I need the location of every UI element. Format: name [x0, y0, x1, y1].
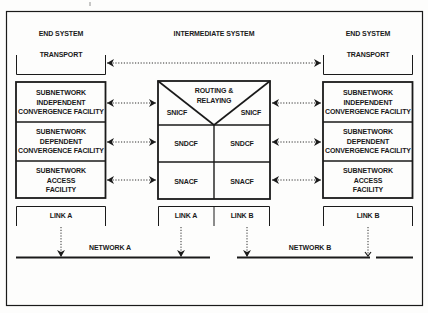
left-end-system-title: END SYSTEM — [16, 29, 106, 39]
middle-snacf-right-label: SNACF — [214, 177, 270, 187]
right-sni-convergence-label: SUBNETWORK INDEPENDENT CONVERGENCE FACIL… — [323, 88, 413, 117]
left-snd-convergence-label: SUBNETWORK DEPENDENT CONVERGENCE FACILIT… — [16, 127, 106, 156]
middle-link-a-label: LINK A — [158, 211, 214, 221]
left-sni-convergence-label: SUBNETWORK INDEPENDENT CONVERGENCE FACIL… — [16, 88, 106, 117]
middle-snicf-left-label: SNICF — [162, 108, 192, 118]
routing-relaying-label: ROUTING & RELAYING — [184, 86, 244, 105]
left-sn-access-label: SUBNETWORK ACCESS FACILITY — [16, 166, 106, 195]
right-end-system-title: END SYSTEM — [323, 29, 413, 39]
right-link-label: LINK B — [323, 211, 413, 221]
right-sn-access-label: SUBNETWORK ACCESS FACILITY — [323, 166, 413, 195]
middle-sndcf-right-label: SNDCF — [214, 139, 270, 149]
network-b-label: NETWORK B — [280, 243, 340, 253]
diagram-canvas — [0, 0, 428, 313]
middle-sndcf-left-label: SNDCF — [158, 139, 214, 149]
intermediate-system-title: INTERMEDIATE SYSTEM — [158, 29, 270, 39]
left-link-label: LINK A — [16, 211, 106, 221]
network-a-label: NETWORK A — [80, 243, 140, 253]
right-snd-convergence-label: SUBNETWORK DEPENDENT CONVERGENCE FACILIT… — [323, 127, 413, 156]
left-transport-label: TRANSPORT — [16, 50, 106, 60]
middle-snicf-right-label: SNICF — [236, 108, 266, 118]
right-transport-label: TRANSPORT — [323, 50, 413, 60]
middle-link-b-label: LINK B — [214, 211, 270, 221]
middle-snacf-left-label: SNACF — [158, 177, 214, 187]
